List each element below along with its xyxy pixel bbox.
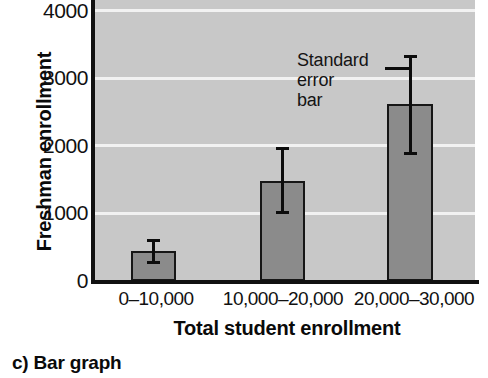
error-bar-cap-bottom [404, 152, 417, 155]
gridline-4000 [95, 9, 475, 12]
figure-caption: c) Bar graph [12, 352, 122, 374]
error-bar-10000-20000 [260, 147, 305, 214]
y-axis-tick-labels: 4000 3000 2000 1000 0 [34, 0, 88, 300]
y-tick-label: 2000 [34, 135, 88, 156]
x-axis-line [91, 280, 479, 284]
y-tick-label: 0 [34, 270, 88, 291]
error-bar-cap-bottom [147, 261, 160, 264]
y-axis-line [91, 0, 95, 284]
y-tick-label: 3000 [34, 67, 88, 88]
plot-area [95, 0, 475, 281]
error-bar-cap-top [147, 239, 160, 242]
standard-error-bar-annotation: Standard error bar [297, 50, 368, 110]
error-bar-cap-top [276, 147, 289, 150]
x-tick-label: 20,000–30,000 [336, 288, 488, 310]
error-bar-stem [409, 55, 412, 155]
annotation-line-3: bar [297, 90, 368, 110]
error-bar-stem [281, 147, 284, 214]
annotation-line-1: Standard [297, 50, 368, 70]
x-axis-title: Total student enrollment [95, 317, 479, 340]
x-axis-tick-labels: 0–10,000 10,000–20,000 20,000–30,000 [95, 288, 479, 314]
error-bar-cap-top [404, 55, 417, 58]
annotation-leader-line [385, 67, 412, 70]
error-bar-0-10000 [131, 239, 176, 264]
error-bar-cap-bottom [276, 211, 289, 214]
annotation-line-2: error [297, 70, 368, 90]
y-tick-label: 4000 [34, 0, 88, 21]
bar-graph-figure: Freshman enrollment 4000 3000 2000 1000 … [0, 0, 488, 378]
y-tick-label: 1000 [34, 202, 88, 223]
error-bar-20000-30000 [387, 55, 433, 155]
